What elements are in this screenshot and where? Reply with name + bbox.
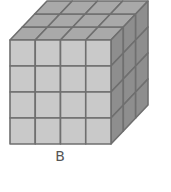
unit-cube-face [61,66,86,92]
unit-cube-face [10,92,35,118]
unit-cube-face [10,118,35,144]
unit-cube-face [86,118,111,144]
unit-cube-face [10,66,35,92]
unit-cube-face [86,40,111,66]
figure-label: B [50,148,70,164]
unit-cube-face [61,118,86,144]
unit-cube-face [35,40,60,66]
unit-cube-figure [0,0,171,192]
unit-cube-face [61,92,86,118]
unit-cube-face [10,40,35,66]
cube-front-face [10,40,111,144]
unit-cube-face [35,66,60,92]
unit-cube-face [61,40,86,66]
unit-cube-face [86,66,111,92]
unit-cube-face [35,92,60,118]
unit-cube-face [86,92,111,118]
unit-cube-face [35,118,60,144]
